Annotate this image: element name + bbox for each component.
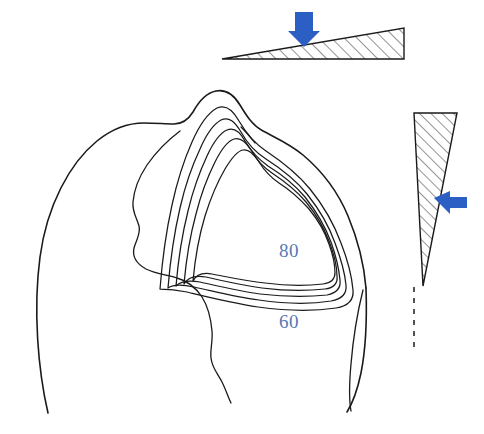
contour-figure-svg: 80 60	[0, 0, 484, 434]
contour-line-3	[176, 129, 340, 296]
body-outline-group	[37, 91, 367, 413]
right-wedge-group	[414, 113, 467, 352]
down-arrow-icon	[288, 12, 320, 47]
contour-label-60: 60	[279, 311, 299, 332]
contour-lines-group	[160, 107, 353, 310]
down-arrow	[288, 12, 320, 47]
internal-profile-path	[133, 131, 231, 403]
contour-line-2	[168, 119, 346, 303]
internal-profile-group	[133, 131, 231, 403]
contour-line-5	[193, 150, 335, 286]
figure-root: 80 60	[0, 0, 484, 434]
contour-label-80: 80	[279, 240, 299, 261]
top-wedge-group	[222, 12, 404, 59]
contour-line-4	[184, 139, 337, 291]
outer-boundary-path	[37, 91, 366, 413]
